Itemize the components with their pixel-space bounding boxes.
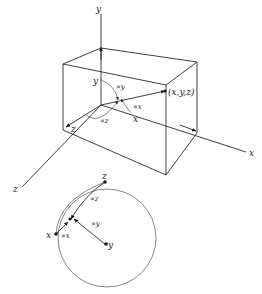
- x-axis: [101, 105, 246, 152]
- z-axis-label: z: [12, 184, 18, 194]
- sphere-y-label: y: [107, 240, 114, 250]
- sphere-z-label: z: [101, 171, 107, 181]
- sphere-x-label: x: [46, 230, 51, 240]
- alpha-y-label: ∝y: [116, 83, 126, 91]
- unit-sphere: [58, 189, 156, 287]
- sphere-point-x: [54, 232, 58, 236]
- sphere-point-p: [68, 217, 71, 220]
- point-label: (x,y,z): [168, 87, 195, 97]
- sphere-alpha-x-label: ∝x: [61, 232, 70, 240]
- y-axis-label: y: [95, 4, 102, 14]
- box-y-label: y: [92, 76, 99, 86]
- sphere-arc-alpha-y: [74, 219, 106, 245]
- sphere-alpha-y-label: ∝y: [91, 220, 101, 228]
- direction-cosines-diagram: y x z (x,y,z) y x z ∝y ∝x ∝z z x y ∝z ∝y…: [0, 0, 262, 294]
- point-xyz: [163, 89, 166, 92]
- sphere-alpha-z-label: ∝z: [90, 195, 99, 203]
- x-projection-arrow: [180, 125, 196, 131]
- alpha-z-label: ∝z: [100, 117, 109, 125]
- x-axis-label: x: [249, 148, 254, 158]
- box-x-label: x: [133, 114, 138, 124]
- box-z-label: z: [70, 124, 76, 134]
- alpha-x-label: ∝x: [133, 103, 142, 111]
- angle-arc-alpha-x: [121, 99, 130, 112]
- sphere-arc-alpha-z: [71, 182, 105, 219]
